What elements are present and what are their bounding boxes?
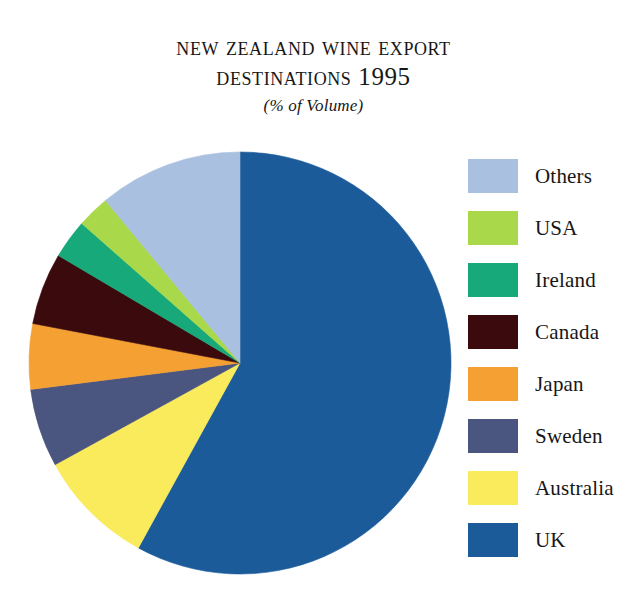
- legend-swatch-japan: [468, 367, 518, 401]
- legend-swatch-canada: [468, 315, 518, 349]
- legend-label: Australia: [535, 476, 614, 501]
- legend-item[interactable]: Australia: [468, 462, 627, 514]
- legend-label: UK: [535, 528, 566, 553]
- legend-swatch-sweden: [468, 419, 518, 453]
- legend-item[interactable]: Japan: [468, 358, 627, 410]
- legend-swatch-usa: [468, 211, 518, 245]
- legend-item[interactable]: USA: [468, 202, 627, 254]
- chart-legend: OthersUSAIrelandCanadaJapanSwedenAustral…: [468, 150, 627, 566]
- legend-swatch-australia: [468, 471, 518, 505]
- chart-subtitle: (% of Volume): [0, 96, 627, 116]
- legend-label: Sweden: [535, 424, 603, 449]
- legend-label: USA: [535, 216, 578, 241]
- legend-label: Canada: [535, 320, 599, 345]
- chart-title-line-2: Destinations 1995: [0, 62, 627, 91]
- legend-label: Japan: [535, 372, 584, 397]
- pie-chart-svg: [22, 145, 458, 581]
- legend-swatch-others: [468, 159, 518, 193]
- legend-swatch-uk: [468, 523, 518, 557]
- pie-chart: [22, 145, 458, 581]
- pie-slice-group: [29, 152, 451, 574]
- legend-item[interactable]: Ireland: [468, 254, 627, 306]
- chart-title-block: New Zealand Wine Export Destinations 199…: [0, 32, 627, 116]
- legend-item[interactable]: Canada: [468, 306, 627, 358]
- legend-item[interactable]: Others: [468, 150, 627, 202]
- legend-item[interactable]: UK: [468, 514, 627, 566]
- chart-figure: New Zealand Wine Export Destinations 199…: [0, 0, 627, 614]
- chart-title-line-1: New Zealand Wine Export: [0, 32, 627, 61]
- legend-swatch-ireland: [468, 263, 518, 297]
- legend-label: Others: [535, 164, 592, 189]
- legend-item[interactable]: Sweden: [468, 410, 627, 462]
- legend-label: Ireland: [535, 268, 596, 293]
